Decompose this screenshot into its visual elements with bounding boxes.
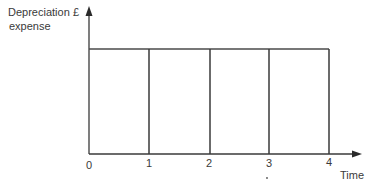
y-axis-label-line2: expense xyxy=(9,20,51,33)
depreciation-chart xyxy=(0,0,373,193)
x-tick-4: 4 xyxy=(326,156,332,169)
x-tick-2: 2 xyxy=(206,157,212,170)
stray-mark xyxy=(266,177,268,179)
y-axis-unit: £ xyxy=(73,6,79,19)
x-tick-0: 0 xyxy=(86,159,92,172)
y-axis-arrow-icon xyxy=(86,6,93,16)
x-axis-label: Time xyxy=(340,169,364,182)
x-tick-3: 3 xyxy=(266,157,272,170)
x-axis-arrow-icon xyxy=(352,151,362,158)
y-axis-label-line1: Depreciation xyxy=(8,6,70,19)
x-tick-1: 1 xyxy=(146,157,152,170)
